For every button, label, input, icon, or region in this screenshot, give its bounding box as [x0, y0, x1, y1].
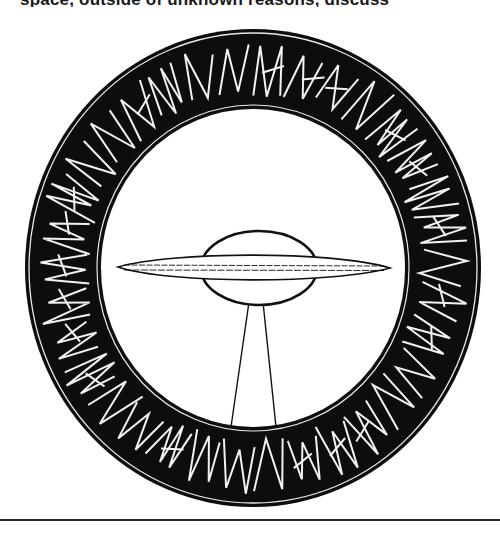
ufo-emblem [0, 0, 500, 534]
rune-crossbar [325, 88, 348, 89]
rune-crossbar [431, 326, 432, 350]
rune-crossbar [74, 187, 75, 211]
rune-crossbar [161, 449, 184, 450]
horizontal-rule [0, 519, 500, 521]
